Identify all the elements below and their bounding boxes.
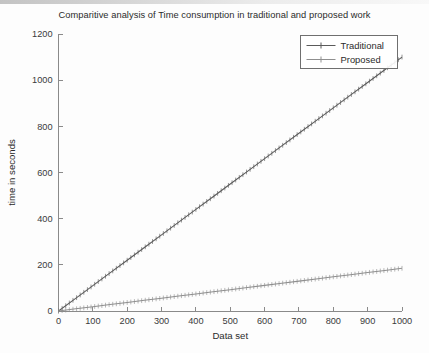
y-tick-label: 1000	[32, 75, 52, 85]
x-axis-title: Data set	[212, 330, 248, 341]
x-tick-label: 600	[257, 316, 272, 326]
x-tick-label: 300	[154, 316, 169, 326]
x-tick-label: 700	[291, 316, 306, 326]
x-tick-label: 500	[223, 316, 238, 326]
y-tick-label: 0	[47, 306, 52, 316]
legend-label: Traditional	[341, 40, 384, 51]
x-tick-label: 0	[56, 316, 61, 326]
y-tick-label: 800	[37, 122, 52, 132]
figure-canvas: Comparitive analysis of Time consumption…	[0, 0, 429, 353]
y-axis-title: time in seconds	[6, 139, 17, 206]
x-tick-label: 100	[85, 316, 100, 326]
y-tick-label: 200	[37, 260, 52, 270]
y-tick-label: 1200	[32, 29, 52, 39]
x-tick-label: 400	[188, 316, 203, 326]
x-tick-label: 900	[360, 316, 375, 326]
x-tick-label: 200	[120, 316, 135, 326]
legend-label: Proposed	[341, 54, 381, 65]
axes-group: 0200400600800100012000100200300400500600…	[32, 29, 412, 326]
series-group	[59, 55, 403, 314]
legend-group[interactable]: TraditionalProposed	[301, 36, 398, 69]
x-tick-label: 1000	[392, 316, 412, 326]
x-tick-label: 800	[326, 316, 341, 326]
y-tick-label: 600	[37, 168, 52, 178]
y-tick-label: 400	[37, 214, 52, 224]
chart-plot: 0200400600800100012000100200300400500600…	[0, 0, 429, 353]
